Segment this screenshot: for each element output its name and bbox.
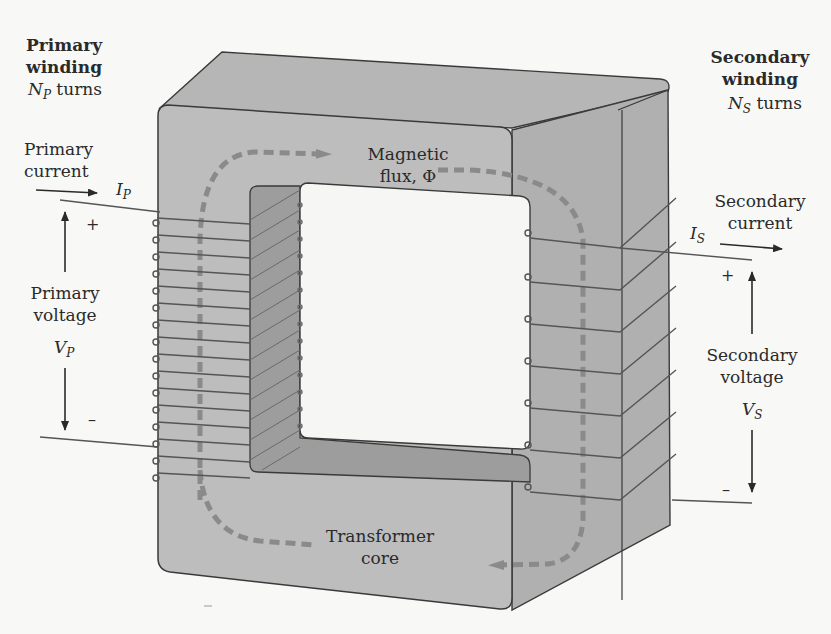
core-window [300,183,530,449]
secondary-minus-sign: – [722,480,730,499]
secondary-current-symbol: IS [690,222,705,246]
primary-plus-sign: + [86,215,99,234]
primary-current-symbol: IP [116,178,131,202]
secondary-winding-label: Secondary winding [705,46,815,90]
core-side-face [512,90,670,610]
secondary-turns-label: NS turns [720,92,810,116]
secondary-current-label: Secondary current [705,190,815,234]
primary-current-arrow [36,190,97,193]
transformer-diagram: Primary winding NP turns Secondary windi… [0,0,831,634]
secondary-voltage-label: Secondary voltage [697,344,807,388]
primary-current-label: Primary current [24,138,93,182]
primary-turns-label: NP turns [28,78,102,102]
primary-minus-sign: – [88,410,96,429]
transformer-core-label: Transformer core [315,525,445,569]
primary-voltage-label: Primary voltage [20,282,110,326]
magnetic-flux-label: Magnetic flux, Φ [348,143,468,187]
secondary-plus-sign: + [721,266,734,285]
primary-winding-label: Primary winding [26,34,102,78]
primary-voltage-symbol: VP [54,336,74,360]
secondary-current-arrow [720,244,782,249]
secondary-voltage-symbol: VS [742,398,763,422]
